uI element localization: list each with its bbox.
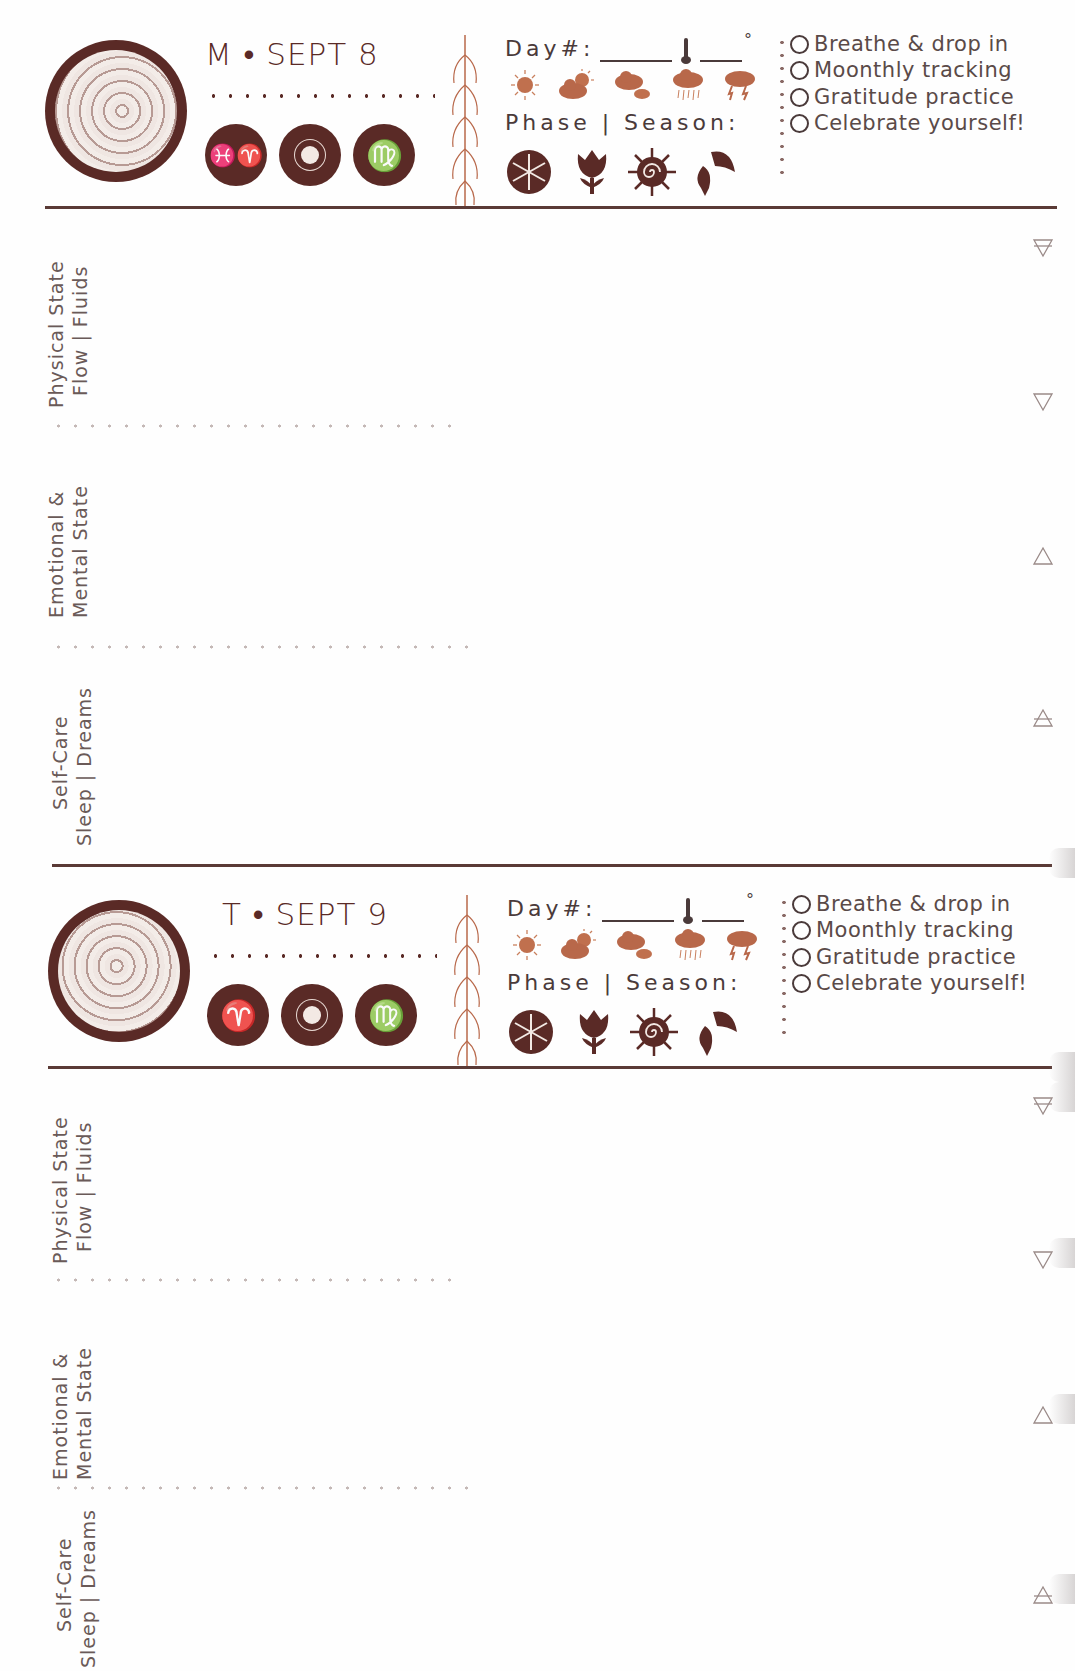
rain-icon[interactable] (670, 928, 710, 962)
water-element-icon (1032, 390, 1054, 412)
earth-element-icon (1032, 236, 1054, 258)
winter-snowflake-icon[interactable] (505, 148, 553, 196)
section-label: Self-CareSleep | Dreams (48, 687, 96, 846)
page-tab-edge (1049, 1238, 1075, 1268)
phase-season-label: Phase | Season: (505, 110, 739, 135)
sun-icon (281, 984, 343, 1046)
degree-symbol: ° (744, 30, 752, 49)
aries-icon: ♈ (207, 984, 269, 1046)
checklist-item[interactable]: Celebrate yourself! (790, 111, 1025, 135)
section-self-care[interactable]: Self-CareSleep | Dreams (0, 650, 1075, 860)
virgo-icon: ♍ (355, 984, 417, 1046)
date-title: T • SEPT 9 (222, 896, 388, 933)
day-entry-sept-9: T • SEPT 9 ♈ ♍ Day#: ° (0, 860, 1075, 1671)
checkbox-circle[interactable] (790, 114, 809, 133)
cloudy-icon[interactable] (614, 928, 654, 962)
day-number-label: Day#: (505, 36, 594, 61)
checklist-item[interactable]: Moonthly tracking (792, 918, 1014, 942)
checklist-divider (782, 896, 786, 1036)
checklist-divider (780, 36, 784, 176)
sunny-icon[interactable] (507, 928, 547, 962)
storm-icon[interactable] (720, 68, 760, 102)
fern-divider-icon (450, 895, 484, 1067)
thermometer-icon (684, 38, 688, 60)
header-divider (45, 206, 1057, 209)
date-title: M • SEPT 8 (205, 36, 379, 73)
checkbox-circle[interactable] (792, 921, 811, 940)
storm-icon[interactable] (722, 928, 762, 962)
day-header: T • SEPT 9 ♈ ♍ Day#: ° (0, 890, 1075, 1070)
page-tab-edge (1049, 1394, 1075, 1424)
temperature-field[interactable] (702, 920, 744, 922)
section-emotional[interactable]: Emotional &Mental State (0, 428, 1075, 646)
date-dotted-line (207, 954, 437, 958)
checklist: Breathe & drop in Moonthly tracking Grat… (790, 32, 1070, 152)
day-number-field[interactable] (602, 920, 674, 922)
checkbox-circle[interactable] (792, 895, 811, 914)
phase-season-label: Phase | Season: (507, 970, 741, 995)
section-self-care[interactable]: Self-CareSleep | Dreams (0, 1490, 1075, 1671)
checkbox-circle[interactable] (790, 88, 809, 107)
autumn-leaf-icon[interactable] (690, 148, 738, 196)
checkbox-circle[interactable] (790, 35, 809, 54)
sunny-icon[interactable] (505, 68, 545, 102)
degree-symbol: ° (746, 890, 754, 909)
air-element-icon (1032, 707, 1054, 729)
moon-phase-icon (48, 900, 190, 1042)
winter-snowflake-icon[interactable] (507, 1008, 555, 1056)
checklist-item[interactable]: Breathe & drop in (790, 32, 1009, 56)
day-header: M • SEPT 8 ♓♈ ♍ Day#: ° (0, 30, 1075, 210)
checklist-item[interactable]: Breathe & drop in (792, 892, 1011, 916)
section-physical[interactable]: Physical StateFlow | Fluids (0, 212, 1075, 428)
virgo-icon: ♍ (353, 124, 415, 186)
summer-sun-icon[interactable] (628, 148, 676, 196)
cloudy-icon[interactable] (612, 68, 652, 102)
day-number-field[interactable] (600, 60, 672, 62)
checklist: Breathe & drop in Moonthly tracking Grat… (792, 892, 1072, 1012)
thermometer-icon (686, 898, 690, 920)
fern-divider-icon (448, 35, 482, 207)
moon-phase-icon (45, 40, 187, 182)
section-label: Emotional &Mental State (44, 485, 92, 618)
checkbox-circle[interactable] (792, 948, 811, 967)
date-dotted-line (205, 94, 435, 98)
partly-cloudy-icon[interactable] (558, 928, 598, 962)
section-label: Self-CareSleep | Dreams (52, 1509, 100, 1668)
day-entry-sept-8: M • SEPT 8 ♓♈ ♍ Day#: ° (0, 0, 1075, 860)
partly-cloudy-icon[interactable] (556, 68, 596, 102)
page-tab-edge (1049, 1574, 1075, 1604)
pisces-aries-icon: ♓♈ (205, 124, 267, 186)
temperature-field[interactable] (700, 60, 742, 62)
sun-icon (279, 124, 341, 186)
summer-sun-icon[interactable] (630, 1008, 678, 1056)
checklist-item[interactable]: Gratitude practice (792, 945, 1016, 969)
section-label: Physical StateFlow | Fluids (44, 260, 92, 408)
header-divider (48, 1066, 1052, 1069)
section-physical[interactable]: Physical StateFlow | Fluids (0, 1072, 1075, 1288)
section-emotional[interactable]: Emotional &Mental State (0, 1280, 1075, 1500)
fire-element-icon (1032, 545, 1054, 567)
section-label: Emotional &Mental State (48, 1347, 96, 1480)
checkbox-circle[interactable] (792, 974, 811, 993)
checklist-item[interactable]: Gratitude practice (790, 85, 1014, 109)
rain-icon[interactable] (668, 68, 708, 102)
section-label: Physical StateFlow | Fluids (48, 1116, 96, 1264)
autumn-leaf-icon[interactable] (692, 1008, 740, 1056)
day-number-label: Day#: (507, 896, 596, 921)
section-separator (50, 645, 480, 649)
spring-tulip-icon[interactable] (568, 148, 616, 196)
checklist-item[interactable]: Moonthly tracking (790, 58, 1012, 82)
checklist-item[interactable]: Celebrate yourself! (792, 971, 1027, 995)
page-tab-edge (1049, 1082, 1075, 1112)
spring-tulip-icon[interactable] (570, 1008, 618, 1056)
checkbox-circle[interactable] (790, 61, 809, 80)
